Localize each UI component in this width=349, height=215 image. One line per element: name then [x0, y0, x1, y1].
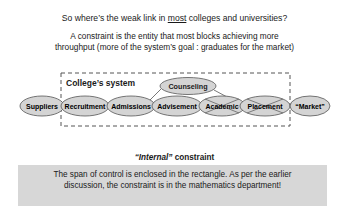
explanation-line-2: discussion, the constraint is in the mat…	[18, 180, 327, 191]
node-suppliers: Suppliers	[20, 96, 64, 116]
constraint-type-text: constraint	[172, 153, 214, 162]
node-label: Placement	[247, 103, 283, 110]
node-recruitment: Recruitment	[61, 96, 109, 116]
node-label: Admissions	[111, 103, 151, 110]
node-label: Counseling	[168, 82, 207, 91]
node-label: Recruitment	[65, 103, 107, 110]
node-label: Academic	[205, 103, 238, 110]
constraint-type-emphasis: “Internal”	[135, 153, 173, 162]
node-market: “Market”	[290, 96, 330, 116]
node-placement: Placement	[240, 96, 290, 116]
node-admissions: Admissions	[107, 96, 155, 116]
node-advisement: Advisement	[152, 96, 202, 116]
node-label: Suppliers	[26, 103, 58, 111]
node-label: “Market”	[295, 103, 325, 110]
boundary-label: College’s system	[66, 78, 136, 88]
node-label: Advisement	[157, 103, 197, 110]
explanation-line-1: The span of control is enclosed in the r…	[18, 169, 327, 180]
constraint-type-label: “Internal” constraint	[0, 153, 349, 162]
node-academic: Academic	[199, 96, 245, 116]
explanation-box: The span of control is enclosed in the r…	[18, 165, 327, 206]
node-counseling: Counseling	[160, 78, 216, 95]
